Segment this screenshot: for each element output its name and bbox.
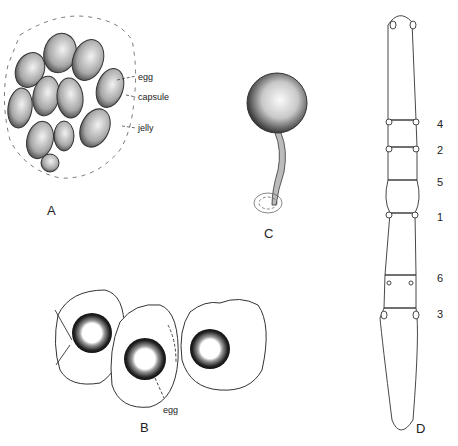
panel-label-c: C bbox=[264, 226, 273, 241]
panel-b-eggs: egg B bbox=[55, 290, 266, 435]
callout-egg-b: egg bbox=[163, 405, 178, 415]
panel-label-b: B bbox=[140, 420, 149, 435]
segment-number-6: 6 bbox=[437, 272, 443, 284]
panel-label-a: A bbox=[47, 203, 56, 218]
callout-jelly: jelly bbox=[137, 123, 154, 133]
panel-label-d: D bbox=[416, 421, 425, 436]
segment-number-4: 4 bbox=[437, 118, 443, 130]
segment-number-3: 3 bbox=[437, 308, 443, 320]
segment-number-1: 1 bbox=[437, 211, 443, 223]
panel-d-segmented-body bbox=[380, 16, 419, 430]
panel-a-egg-mass: egg capsule jelly A bbox=[4, 16, 169, 218]
segment-number-2: 2 bbox=[437, 144, 443, 156]
callout-egg: egg bbox=[138, 72, 153, 82]
figure: egg capsule jelly A C egg B bbox=[0, 0, 458, 446]
segment-numbers: 4 2 5 1 6 3 D bbox=[416, 118, 443, 436]
segment-number-5: 5 bbox=[437, 176, 443, 188]
figure-drawing: egg capsule jelly A C egg B bbox=[0, 0, 458, 446]
callout-capsule: capsule bbox=[138, 92, 169, 102]
panel-c-stalked-egg: C bbox=[247, 73, 307, 241]
